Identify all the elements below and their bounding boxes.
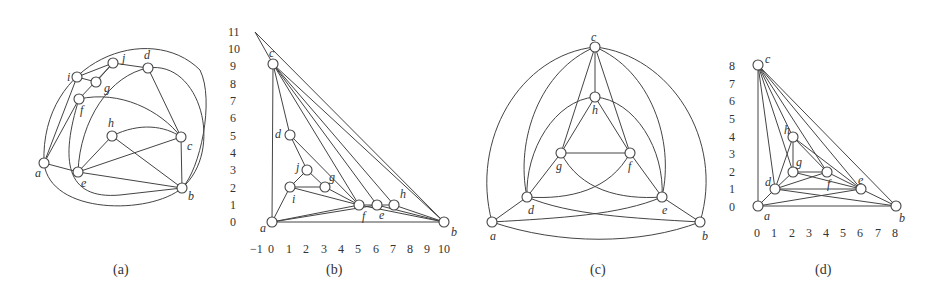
node-b bbox=[177, 183, 187, 193]
svg-text:6: 6 bbox=[373, 242, 379, 256]
panel-d: 0 1 2 3 4 5 6 7 8 0 1 2 3 4 5 6 7 8 bbox=[729, 52, 905, 240]
svg-text:1: 1 bbox=[286, 242, 292, 256]
node-d bbox=[522, 192, 532, 202]
svg-text:−1: −1 bbox=[250, 242, 263, 256]
node-c bbox=[176, 132, 186, 142]
label-a: a bbox=[35, 166, 41, 180]
svg-text:0: 0 bbox=[268, 242, 274, 256]
node-b bbox=[695, 217, 705, 227]
label-b: b bbox=[899, 211, 905, 225]
caption-b: (b) bbox=[326, 262, 343, 278]
node-a bbox=[487, 217, 497, 227]
svg-text:7: 7 bbox=[230, 94, 236, 108]
node-d bbox=[770, 184, 780, 194]
label-g: g bbox=[104, 81, 110, 95]
node-g bbox=[91, 77, 101, 87]
label-h: h bbox=[784, 123, 790, 137]
node-c bbox=[268, 59, 278, 69]
label-a: a bbox=[490, 229, 496, 243]
svg-text:9: 9 bbox=[230, 59, 236, 73]
node-i bbox=[285, 182, 295, 192]
svg-text:3: 3 bbox=[806, 226, 812, 240]
node-a bbox=[267, 217, 277, 227]
svg-text:6: 6 bbox=[729, 94, 735, 108]
panel-d-labels: a b c d e f g h bbox=[764, 52, 905, 225]
svg-text:10: 10 bbox=[438, 242, 450, 256]
label-c: c bbox=[765, 52, 771, 66]
svg-text:5: 5 bbox=[355, 242, 361, 256]
label-e: e bbox=[662, 203, 668, 217]
svg-text:3: 3 bbox=[729, 147, 735, 161]
svg-text:0: 0 bbox=[729, 200, 735, 214]
panel-c-edges bbox=[487, 47, 706, 239]
svg-text:3: 3 bbox=[321, 242, 327, 256]
svg-text:1: 1 bbox=[230, 198, 236, 212]
label-h: h bbox=[592, 103, 598, 117]
label-a: a bbox=[260, 221, 266, 235]
svg-text:5: 5 bbox=[729, 112, 735, 126]
panel-a: a b c d e f g h i j bbox=[35, 48, 206, 206]
graph-drawings-figure: a b c d e f g h i j 0 1 2 3 4 5 6 7 8 9 … bbox=[0, 0, 938, 298]
label-e: e bbox=[81, 176, 87, 190]
node-a bbox=[753, 201, 763, 211]
caption-d: (d) bbox=[815, 262, 832, 278]
node-i bbox=[72, 72, 82, 82]
panel-d-x-axis-ticks: 0 1 2 3 4 5 6 7 8 bbox=[754, 226, 898, 240]
svg-text:5: 5 bbox=[840, 226, 846, 240]
panel-b: 0 1 2 3 4 5 6 7 8 9 10 11 −1 0 1 2 3 4 5… bbox=[228, 25, 457, 256]
svg-text:3: 3 bbox=[230, 163, 236, 177]
label-g: g bbox=[329, 170, 335, 184]
panel-c-nodes bbox=[487, 42, 705, 227]
svg-text:4: 4 bbox=[230, 146, 236, 160]
svg-text:0: 0 bbox=[754, 226, 760, 240]
label-e: e bbox=[379, 208, 385, 222]
caption-a: (a) bbox=[113, 262, 129, 278]
node-f bbox=[822, 167, 832, 177]
svg-text:11: 11 bbox=[228, 25, 240, 39]
svg-text:9: 9 bbox=[424, 242, 430, 256]
node-h bbox=[389, 200, 399, 210]
svg-text:1: 1 bbox=[729, 182, 735, 196]
label-g: g bbox=[556, 159, 562, 173]
label-d: d bbox=[528, 203, 535, 217]
svg-text:1: 1 bbox=[771, 226, 777, 240]
svg-text:4: 4 bbox=[823, 226, 829, 240]
svg-text:6: 6 bbox=[857, 226, 863, 240]
label-c: c bbox=[269, 46, 275, 60]
svg-text:8: 8 bbox=[892, 226, 898, 240]
label-e: e bbox=[858, 173, 864, 187]
label-c: c bbox=[187, 139, 193, 153]
panel-d-y-axis-ticks: 0 1 2 3 4 5 6 7 8 bbox=[729, 59, 735, 214]
node-j bbox=[302, 165, 312, 175]
svg-text:2: 2 bbox=[303, 242, 309, 256]
node-d bbox=[285, 130, 295, 140]
svg-text:7: 7 bbox=[390, 242, 396, 256]
svg-text:7: 7 bbox=[729, 77, 735, 91]
node-g bbox=[556, 148, 566, 158]
svg-text:8: 8 bbox=[230, 77, 236, 91]
node-j bbox=[108, 58, 118, 68]
label-g: g bbox=[796, 155, 802, 169]
captions: (a) (b) (c) (d) bbox=[113, 262, 832, 278]
label-d: d bbox=[765, 175, 772, 189]
svg-text:2: 2 bbox=[729, 165, 735, 179]
label-d: d bbox=[275, 127, 282, 141]
label-h: h bbox=[108, 116, 114, 130]
svg-text:2: 2 bbox=[789, 226, 795, 240]
node-h bbox=[590, 92, 600, 102]
panel-b-y-axis-ticks: 0 1 2 3 4 5 6 7 8 9 10 11 bbox=[228, 25, 240, 229]
node-h bbox=[107, 131, 117, 141]
node-d bbox=[143, 63, 153, 73]
node-b bbox=[891, 201, 901, 211]
svg-text:5: 5 bbox=[230, 129, 236, 143]
svg-text:8: 8 bbox=[729, 59, 735, 73]
label-b: b bbox=[188, 189, 194, 203]
label-a: a bbox=[764, 209, 770, 223]
label-i: i bbox=[67, 70, 70, 84]
node-e bbox=[657, 192, 667, 202]
svg-text:4: 4 bbox=[338, 242, 344, 256]
caption-c: (c) bbox=[590, 262, 606, 278]
panel-b-edges bbox=[255, 32, 444, 222]
node-c bbox=[753, 60, 763, 70]
panel-b-x-axis-ticks: −1 0 1 2 3 4 5 6 7 8 9 10 bbox=[250, 242, 450, 256]
